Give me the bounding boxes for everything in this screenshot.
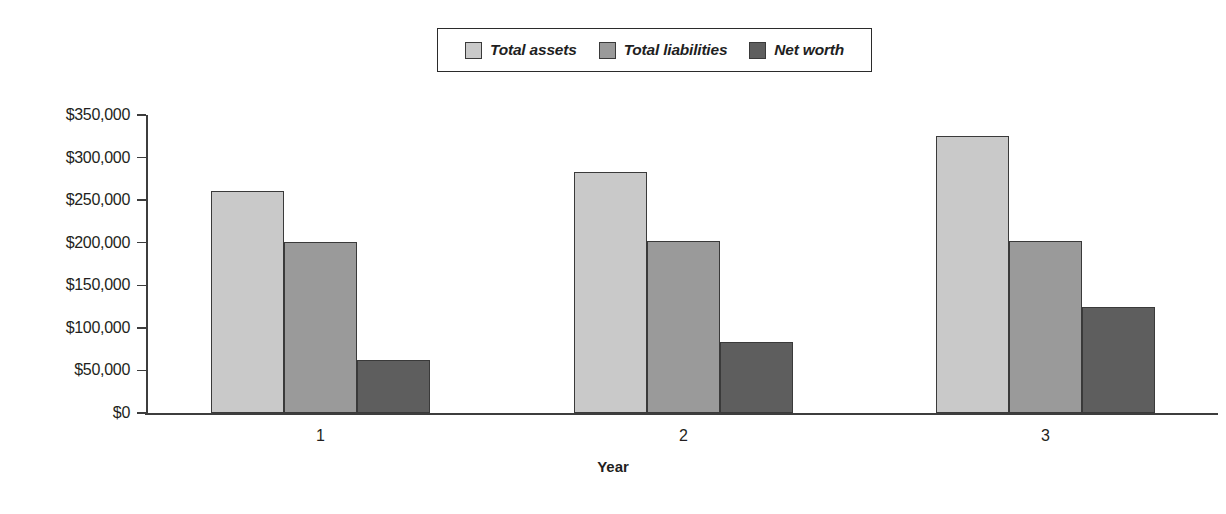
chart-legend: Total assets Total liabilities Net worth <box>437 28 872 72</box>
y-tick-label: $150,000 <box>66 276 130 294</box>
y-tick-label: $100,000 <box>66 319 130 337</box>
y-tick: $150,000 <box>137 285 146 286</box>
x-tick-label-1: 1 <box>211 427 430 445</box>
legend-label-total-assets: Total assets <box>490 41 577 59</box>
bar-total-assets-year-2 <box>574 172 647 413</box>
y-tick: $100,000 <box>137 327 146 328</box>
y-tick-label: $300,000 <box>66 149 130 167</box>
bar-total-liabilities-year-1 <box>284 242 357 413</box>
x-tick-label-3: 3 <box>936 427 1155 445</box>
y-tick: $0 <box>137 412 146 413</box>
y-tick-label: $0 <box>113 404 130 422</box>
y-tick: $50,000 <box>137 370 146 371</box>
bar-total-liabilities-year-2 <box>647 241 720 413</box>
x-tick-label-2: 2 <box>574 427 793 445</box>
legend-item-total-liabilities: Total liabilities <box>599 41 728 59</box>
y-tick-label: $50,000 <box>74 361 130 379</box>
legend-label-total-liabilities: Total liabilities <box>624 41 728 59</box>
legend-swatch-total-assets <box>465 42 482 59</box>
bar-net-worth-year-2 <box>720 342 793 413</box>
legend-label-net-worth: Net worth <box>774 41 844 59</box>
bar-total-assets-year-1 <box>211 191 284 413</box>
bar-group-year-2 <box>574 115 793 413</box>
y-tick-label: $200,000 <box>66 234 130 252</box>
y-tick-label: $350,000 <box>66 106 130 124</box>
bar-group-year-3 <box>936 115 1155 413</box>
legend-swatch-net-worth <box>749 42 766 59</box>
y-axis-line <box>146 115 148 413</box>
bar-net-worth-year-3 <box>1082 307 1155 413</box>
y-tick: $250,000 <box>137 199 146 200</box>
x-axis-title: Year <box>0 458 1226 475</box>
y-tick: $300,000 <box>137 157 146 158</box>
bar-group-year-1 <box>211 115 430 413</box>
y-tick-label: $250,000 <box>66 191 130 209</box>
bar-net-worth-year-1 <box>357 360 430 413</box>
bar-chart: Total assets Total liabilities Net worth… <box>0 0 1226 514</box>
legend-item-net-worth: Net worth <box>749 41 844 59</box>
bar-total-assets-year-3 <box>936 136 1009 413</box>
legend-item-total-assets: Total assets <box>465 41 577 59</box>
y-tick: $200,000 <box>137 242 146 243</box>
y-tick: $350,000 <box>137 114 146 115</box>
plot-area: $0$50,000$100,000$150,000$200,000$250,00… <box>146 115 1218 413</box>
x-axis-line <box>145 413 1218 415</box>
bar-total-liabilities-year-3 <box>1009 241 1082 413</box>
legend-swatch-total-liabilities <box>599 42 616 59</box>
